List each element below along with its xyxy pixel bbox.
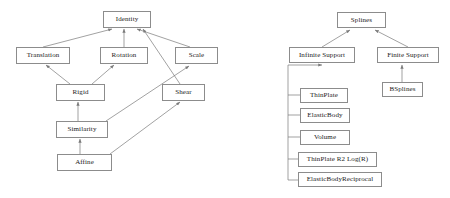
node-bsplines-label: BSplines: [389, 86, 415, 93]
node-elasticbodyreciprocal[interactable]: ElasticBodyReciprocal: [298, 172, 382, 187]
node-thinplate-r2-logr[interactable]: ThinPlate R2 Log(R): [298, 152, 377, 167]
diagram-canvas: Identity Translation Rotation Scale Rigi…: [0, 0, 450, 198]
edge-bracket-riser: [288, 65, 322, 88]
edge-finite-splines: [375, 30, 408, 47]
node-translation-label: Translation: [27, 52, 60, 59]
node-infinite-support-label: Infinite Support: [299, 52, 345, 59]
node-translation[interactable]: Translation: [16, 47, 70, 64]
node-splines-label: Splines: [351, 17, 372, 24]
node-elasticbody[interactable]: ElasticBody: [300, 108, 350, 123]
node-shear[interactable]: Shear: [162, 84, 205, 101]
node-elasticbody-label: ElasticBody: [307, 112, 342, 119]
node-identity[interactable]: Identity: [103, 11, 151, 28]
node-affine[interactable]: Affine: [57, 154, 112, 171]
node-shear-label: Shear: [175, 89, 191, 96]
node-finite-support[interactable]: Finite Support: [377, 47, 439, 63]
node-infinite-support[interactable]: Infinite Support: [289, 47, 355, 63]
node-volume-label: Volume: [314, 134, 336, 141]
node-rigid[interactable]: Rigid: [56, 84, 105, 101]
node-identity-label: Identity: [116, 16, 139, 23]
node-rigid-label: Rigid: [72, 89, 88, 96]
node-finite-support-label: Finite Support: [387, 52, 429, 59]
edge-infinite-splines: [322, 30, 350, 47]
node-rotation[interactable]: Rotation: [100, 47, 148, 64]
node-scale[interactable]: Scale: [175, 47, 218, 64]
node-rotation-label: Rotation: [112, 52, 137, 59]
node-volume[interactable]: Volume: [300, 130, 350, 145]
node-splines[interactable]: Splines: [337, 12, 386, 28]
node-bsplines[interactable]: BSplines: [382, 82, 423, 97]
node-thinplate[interactable]: ThinPlate: [300, 88, 348, 103]
node-thinplate-r2-logr-label: ThinPlate R2 Log(R): [307, 156, 368, 163]
node-similarity[interactable]: Similarity: [56, 121, 108, 138]
node-affine-label: Affine: [75, 159, 94, 166]
node-thinplate-label: ThinPlate: [310, 92, 338, 99]
node-scale-label: Scale: [189, 52, 205, 59]
node-elasticbodyreciprocal-label: ElasticBodyReciprocal: [307, 176, 374, 183]
node-similarity-label: Similarity: [68, 126, 97, 133]
